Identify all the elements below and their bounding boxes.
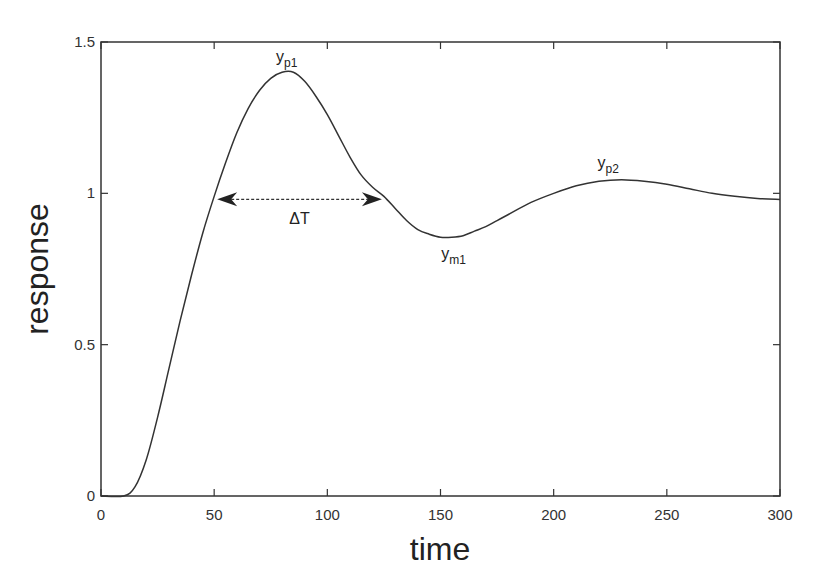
x-axis-title: time — [410, 531, 470, 567]
y-tick-label: 1 — [87, 184, 95, 201]
x-tick-label: 100 — [315, 506, 340, 523]
annotation-yp2: yp2 — [598, 154, 620, 176]
x-tick-label: 0 — [97, 506, 105, 523]
response-curve — [101, 71, 780, 496]
y-tick-label: 1.5 — [74, 33, 95, 50]
x-tick-label: 200 — [541, 506, 566, 523]
arrowhead-right-icon — [362, 192, 382, 206]
x-tick-label: 300 — [767, 506, 792, 523]
response-chart: 05010015020025030000.511.5 ΔT yp1 ym1 yp… — [0, 0, 833, 585]
y-axis-title: response — [19, 203, 55, 335]
axis-tick-labels: 05010015020025030000.511.5 — [74, 33, 792, 523]
y-tick-label: 0 — [87, 487, 95, 504]
y-tick-label: 0.5 — [74, 336, 95, 353]
axis-ticks — [101, 42, 780, 496]
annotation-ym1: ym1 — [441, 245, 466, 267]
annotation-yp1: yp1 — [276, 48, 298, 70]
x-tick-label: 50 — [206, 506, 223, 523]
x-tick-label: 250 — [654, 506, 679, 523]
x-tick-label: 150 — [428, 506, 453, 523]
delta-t-label: ΔT — [289, 210, 310, 227]
plot-border — [101, 42, 780, 496]
delta-t-arrow — [217, 192, 382, 206]
plot-frame — [101, 42, 780, 496]
